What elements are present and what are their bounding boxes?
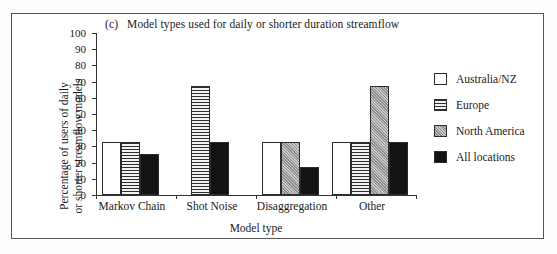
- legend-item-label: North America: [456, 125, 525, 137]
- legend-swatch-icon: [434, 151, 447, 163]
- bar-australia-nz-disaggregation: [262, 142, 281, 195]
- x-axis-tick: [416, 195, 417, 199]
- y-axis-tick-label: 50: [75, 108, 86, 120]
- bar-all-locations-shot-noise: [210, 142, 229, 195]
- legend-item: Europe: [434, 92, 525, 118]
- y-axis-tick-label: 20: [75, 157, 86, 169]
- y-axis-tick-label: 0: [81, 189, 87, 201]
- figure-panel: (c)Model types used for daily or shorter…: [0, 0, 557, 254]
- bar-europe-other: [351, 142, 370, 195]
- figure-title: (c)Model types used for daily or shorter…: [105, 18, 399, 30]
- y-axis-tick-label: 100: [70, 27, 87, 39]
- legend-swatch-icon: [434, 99, 447, 111]
- x-axis-title: Model type: [96, 222, 416, 234]
- bar-north-america-other: [370, 86, 389, 195]
- x-axis-category-label: Shot Noise: [187, 200, 238, 212]
- legend-item: Australia/NZ: [434, 66, 525, 92]
- bar-australia-nz-other: [332, 142, 351, 195]
- bar-all-locations-disaggregation: [300, 167, 319, 195]
- x-axis-tick: [336, 195, 337, 199]
- legend-item: All locations: [434, 144, 525, 170]
- y-axis-tick-label: 60: [75, 92, 86, 104]
- chart-legend: Australia/NZEuropeNorth AmericaAll locat…: [434, 66, 525, 170]
- y-axis-tick-label: 10: [75, 173, 86, 185]
- y-axis-tick: 60: [92, 98, 97, 99]
- x-axis-category-label: Disaggregation: [257, 200, 327, 212]
- legend-item-label: All locations: [456, 151, 515, 163]
- x-axis-tick: [256, 195, 257, 199]
- bar-europe-shot-noise: [191, 86, 210, 195]
- x-axis-category-label: Markov Chain: [99, 200, 166, 212]
- figure-title-text: Model types used for daily or shorter du…: [127, 18, 399, 30]
- plot-area: 0102030405060708090100: [96, 33, 416, 195]
- y-axis-tick: 40: [92, 130, 97, 131]
- y-axis-tick-label: 40: [75, 124, 86, 136]
- x-axis-tick: [96, 195, 97, 199]
- x-axis-tick: [176, 195, 177, 199]
- bar-all-locations-other: [389, 142, 408, 195]
- panel-tag: (c): [105, 18, 118, 30]
- y-axis-tick: 10: [92, 179, 97, 180]
- legend-item: North America: [434, 118, 525, 144]
- legend-swatch-icon: [434, 125, 447, 137]
- y-axis-tick: 100: [92, 33, 97, 34]
- bar-north-america-disaggregation: [281, 142, 300, 195]
- bar-all-locations-markov-chain: [140, 154, 159, 195]
- legend-swatch-icon: [434, 73, 447, 85]
- y-axis-tick: 20: [92, 163, 97, 164]
- y-axis-tick: 50: [92, 114, 97, 115]
- bar-europe-markov-chain: [121, 142, 140, 195]
- bar-australia-nz-markov-chain: [102, 142, 121, 195]
- y-axis-tick-label: 70: [75, 76, 86, 88]
- y-axis-tick: 80: [92, 65, 97, 66]
- legend-item-label: Australia/NZ: [456, 73, 517, 85]
- y-axis-tick: 70: [92, 82, 97, 83]
- legend-item-label: Europe: [456, 99, 489, 111]
- x-axis-category-label: Other: [359, 200, 385, 212]
- y-axis-tick: 90: [92, 49, 97, 50]
- y-axis-tick-label: 80: [75, 59, 86, 71]
- y-axis-tick-label: 30: [75, 140, 86, 152]
- y-axis-tick: 30: [92, 146, 97, 147]
- y-axis-title-line1: Percentage of users of daily: [58, 64, 72, 228]
- y-axis-tick-label: 90: [75, 43, 86, 55]
